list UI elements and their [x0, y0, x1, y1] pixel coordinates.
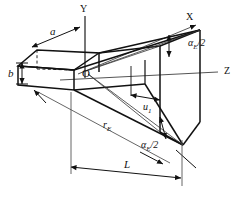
label-y-axis: Y	[80, 3, 87, 14]
label-u1: u1	[143, 101, 152, 115]
label-z-axis: Z	[224, 65, 230, 76]
diagram-canvas: a b O Y X Z αE/2 αE/2	[0, 0, 242, 199]
label-x-axis: X	[186, 11, 194, 22]
label-rE: rE	[103, 119, 112, 133]
lower-angle-leader	[140, 152, 163, 164]
dimension-L	[71, 92, 182, 186]
dimension-a	[32, 27, 80, 47]
label-upper-alpha-tail: /2	[197, 37, 206, 48]
horn-top-plate	[74, 30, 200, 70]
label-lower-alpha-tail: /2	[150, 139, 159, 150]
horn-antenna-diagram: a b O Y X Z αE/2 αE/2	[0, 0, 242, 199]
waveguide-hidden-edges	[37, 50, 74, 70]
label-lower-alpha: αE/2	[141, 139, 158, 153]
label-a: a	[50, 25, 56, 37]
label-rE-sub: E	[106, 125, 112, 133]
dimension-rE	[34, 90, 170, 163]
label-upper-alpha: αE/2	[188, 37, 205, 51]
label-L: L	[123, 158, 130, 170]
label-b: b	[8, 67, 14, 79]
label-u1-sub: 1	[148, 107, 152, 115]
label-origin: O	[82, 67, 90, 79]
